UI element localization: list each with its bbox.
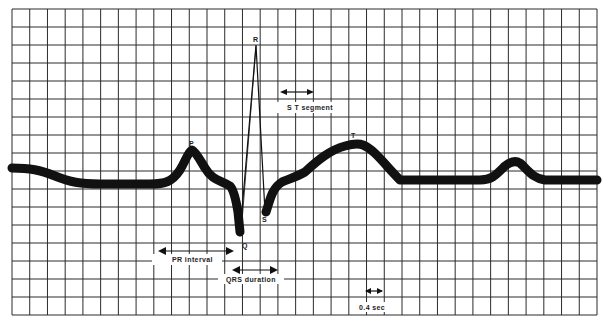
pr-interval-label: PR interval (172, 256, 213, 263)
st-segment-label: S T segment (287, 104, 333, 112)
r-wave-label: R (253, 36, 258, 43)
q-wave-label: Q (242, 242, 248, 250)
ecg-diagram: P Q R S T S T segment PR interval QRS du… (0, 0, 604, 327)
p-wave-label: P (189, 140, 194, 147)
t-wave-label: T (351, 132, 356, 139)
time-scale-label: 0.4 sec (359, 304, 385, 311)
s-wave-label: S (262, 216, 267, 223)
qrs-duration-label: QRS duration (226, 276, 276, 284)
